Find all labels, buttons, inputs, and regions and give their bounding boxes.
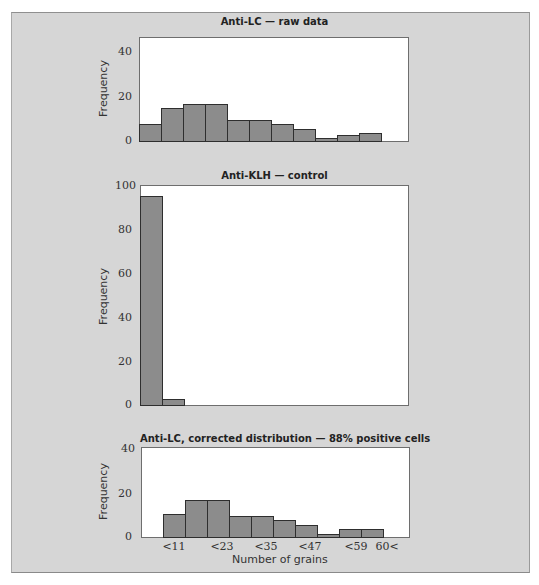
y-tick: 40 [111, 443, 135, 454]
histogram-bar [273, 520, 296, 538]
histogram-bar [337, 135, 360, 142]
histogram-bar [185, 500, 208, 538]
y-tick: 40 [108, 312, 132, 323]
x-tick: <23 [210, 540, 233, 553]
y-tick: 0 [108, 531, 132, 542]
histogram-bar [207, 500, 230, 538]
histogram-bar [317, 534, 340, 538]
histogram-bar [162, 399, 185, 406]
histogram-bar [251, 516, 274, 538]
x-tick: <47 [298, 540, 321, 553]
x-tick: <59 [344, 540, 367, 553]
histogram-bar [271, 124, 294, 142]
y-tick: 0 [108, 399, 132, 410]
plot-area [139, 37, 409, 142]
x-tick: 60< [375, 540, 398, 553]
histogram-bar [227, 120, 250, 142]
histogram-bar [163, 514, 186, 538]
y-tick: 100 [112, 180, 136, 191]
histogram-bar [249, 120, 272, 142]
histogram-bar [139, 124, 162, 142]
histogram-bar [205, 104, 228, 142]
y-tick: 40 [108, 46, 132, 57]
histogram-bar [229, 516, 252, 538]
histogram-bar [315, 138, 338, 142]
histogram-bar [183, 104, 206, 142]
plot-area [141, 447, 410, 538]
y-tick: 60 [108, 268, 132, 279]
chart-title: Anti-LC, corrected distribution — 88% po… [140, 433, 409, 444]
histogram-bar [295, 525, 318, 538]
x-axis-label: Number of grains [232, 553, 328, 566]
histogram-bar [293, 129, 316, 142]
chart-title: Anti-LC — raw data [140, 16, 409, 27]
y-tick: 20 [108, 488, 132, 499]
chart-title: Anti-KLH — control [140, 170, 409, 181]
histogram-bar [140, 196, 163, 406]
y-tick: 0 [108, 135, 132, 146]
y-axis-label: Frequency [97, 59, 110, 119]
histogram-bar [361, 529, 384, 538]
y-tick: 20 [108, 91, 132, 102]
x-tick: <11 [162, 540, 185, 553]
y-tick: 20 [108, 356, 132, 367]
y-tick: 80 [108, 224, 132, 235]
x-tick: <35 [254, 540, 277, 553]
histogram-bar [161, 108, 184, 142]
plot-area [140, 185, 409, 406]
histogram-bar [339, 529, 362, 538]
histogram-bar [359, 133, 382, 142]
